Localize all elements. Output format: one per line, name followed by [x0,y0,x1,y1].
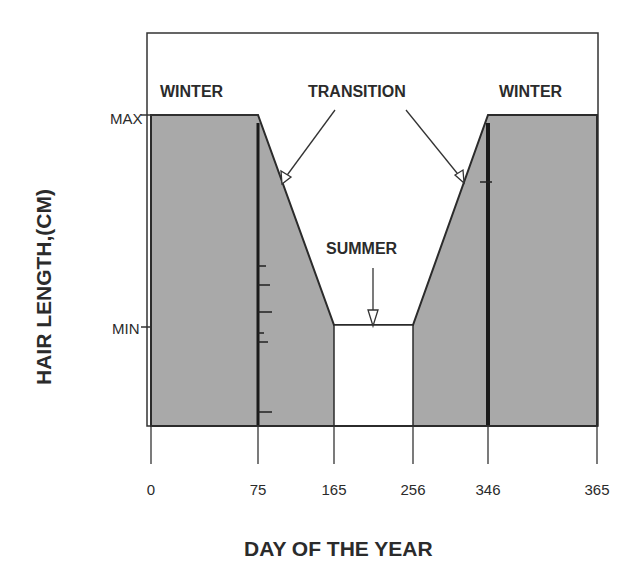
x-axis-title: DAY OF THE YEAR [244,537,433,560]
y-tick-label-min: MIN [112,320,140,337]
arrowhead-icon [368,310,378,326]
y-tick-label-max: MAX [110,110,143,127]
x-axis-ticks [151,426,597,464]
region-label-transition: TRANSITION [308,83,406,100]
region-label-winter-left: WINTER [160,83,224,100]
region-label-summer: SUMMER [326,240,398,257]
x-tick-label: 346 [475,481,500,498]
y-axis-title: HAIR LENGTH,(CM) [32,189,55,385]
summer-region-lines [334,325,413,426]
x-tick-label: 165 [321,481,346,498]
summer-minimum-box [334,325,413,426]
x-tick-label: 256 [400,481,425,498]
x-tick-label: 75 [250,481,267,498]
transition-arrow-left [281,110,335,184]
region-label-winter-right: WINTER [499,83,563,100]
summer-arrow [368,268,378,326]
x-tick-label: 0 [147,481,155,498]
hair-length-chart: 075165256346365 MAX MIN WINTER TRANSITIO… [0,0,641,563]
x-tick-label: 365 [584,481,609,498]
x-axis-tick-labels: 075165256346365 [147,481,610,498]
transition-arrow-right [406,110,464,183]
